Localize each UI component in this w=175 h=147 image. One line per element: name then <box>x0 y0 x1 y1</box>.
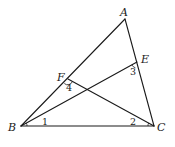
geometry-diagram: A B C E F 1 2 3 4 <box>0 0 175 147</box>
angle-label-2: 2 <box>130 116 136 127</box>
angle-label-3: 3 <box>130 66 136 77</box>
label-A: A <box>119 6 128 19</box>
angle-label-4: 4 <box>66 82 72 93</box>
segment-AB <box>21 19 125 126</box>
label-C: C <box>157 121 166 134</box>
segment-BE <box>21 62 137 126</box>
label-F: F <box>56 71 65 84</box>
segment-CF <box>68 79 154 126</box>
label-E: E <box>140 53 149 66</box>
angle-label-1: 1 <box>42 116 48 127</box>
label-B: B <box>7 121 16 134</box>
triangle-figure: A B C E F 1 2 3 4 <box>0 0 175 147</box>
